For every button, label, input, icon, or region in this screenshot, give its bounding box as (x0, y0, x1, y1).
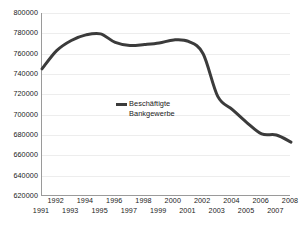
x-tick-label: 1996 (101, 197, 127, 205)
chart-legend: Beschäftigte Bankgewerbe (116, 99, 175, 118)
x-tick-label: 1991 (28, 207, 54, 215)
x-tick-label: 2003 (204, 207, 230, 215)
x-tick-label: 2007 (262, 207, 288, 215)
x-tick-label: 2001 (174, 207, 200, 215)
line-chart: 8000007800007600007400007200007000006800… (0, 0, 300, 239)
x-tick-label: 2006 (248, 197, 274, 205)
x-tick-label: 1993 (57, 207, 83, 215)
x-tick-label: 2008 (277, 197, 300, 205)
x-tick-label: 1995 (87, 207, 113, 215)
x-tick-label: 2004 (218, 197, 244, 205)
x-tick-label: 2002 (189, 197, 215, 205)
x-tick-label: 1994 (72, 197, 98, 205)
x-tick-label: 1999 (145, 207, 171, 215)
legend-label: Beschäftigte Bankgewerbe (129, 99, 175, 118)
x-tick-label: 2005 (233, 207, 259, 215)
x-tick-label: 2000 (160, 197, 186, 205)
legend-swatch-icon (116, 103, 127, 106)
x-tick-label: 1997 (116, 207, 142, 215)
x-tick-label: 1998 (131, 197, 157, 205)
x-axis: 1991199219931994199519961997199819992000… (0, 0, 300, 239)
x-tick-label: 1992 (43, 197, 69, 205)
